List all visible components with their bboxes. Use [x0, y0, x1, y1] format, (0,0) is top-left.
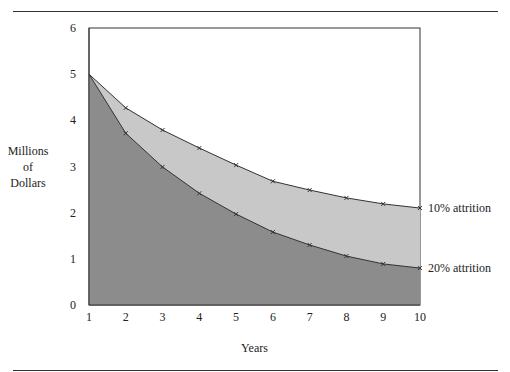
y-axis-label: of [23, 160, 33, 174]
x-tick-label: 5 [233, 310, 239, 324]
y-axis-label: Dollars [10, 176, 46, 190]
x-tick-label: 3 [160, 310, 166, 324]
x-tick-label: 10 [414, 310, 426, 324]
y-tick-label: 0 [70, 298, 76, 312]
y-tick-label: 6 [70, 21, 76, 35]
x-tick-label: 4 [196, 310, 202, 324]
x-tick-label: 6 [270, 310, 276, 324]
attrition-chart: 10% attrition20% attrition01234561234567… [0, 0, 510, 372]
y-tick-label: 5 [70, 67, 76, 81]
y-tick-label: 2 [70, 206, 76, 220]
y-axis-label: Millions [8, 144, 49, 158]
x-tick-label: 7 [307, 310, 313, 324]
x-tick-label: 9 [380, 310, 386, 324]
x-tick-label: 1 [86, 310, 92, 324]
x-tick-label: 8 [343, 310, 349, 324]
y-tick-label: 3 [70, 160, 76, 174]
bottom-rule [13, 370, 498, 371]
series-label: 20% attrition [428, 261, 491, 275]
x-tick-label: 2 [123, 310, 129, 324]
y-tick-label: 1 [70, 252, 76, 266]
y-tick-label: 4 [70, 113, 76, 127]
x-axis-label: Years [241, 341, 268, 355]
chart-figure: 10% attrition20% attrition01234561234567… [0, 0, 510, 372]
series-label: 10% attrition [428, 201, 491, 215]
